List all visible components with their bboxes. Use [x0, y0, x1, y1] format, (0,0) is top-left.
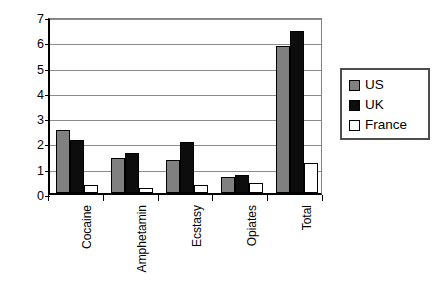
legend-label: US — [365, 78, 384, 92]
y-tick-label: 1 — [37, 164, 44, 177]
bar — [290, 31, 304, 193]
bar-group — [50, 19, 105, 193]
y-tick-label: 4 — [37, 89, 44, 102]
x-tick-mark — [322, 195, 323, 201]
x-tick-mark — [103, 195, 104, 201]
x-axis-label: Ecstasy — [191, 205, 203, 247]
bar-group — [105, 19, 160, 193]
bar — [111, 158, 125, 193]
bar — [249, 183, 263, 193]
y-tick-label: 0 — [37, 190, 44, 203]
x-axis-label: Opiates — [246, 205, 258, 246]
bar — [125, 153, 139, 193]
y-tick-label: 6 — [37, 38, 44, 51]
x-tick-mark — [48, 195, 49, 201]
legend-item: US — [349, 75, 428, 95]
legend-item: France — [349, 115, 428, 135]
bar-chart: 01234567 CocaineAmphetaminEcstasyOpiates… — [0, 0, 440, 287]
bars-layer — [50, 19, 321, 193]
y-tick-label: 3 — [37, 114, 44, 127]
bar — [194, 185, 208, 193]
bar — [166, 160, 180, 193]
bar-group — [214, 19, 269, 193]
bar-group — [160, 19, 215, 193]
legend-swatch-icon — [349, 100, 360, 111]
plot-area: 01234567 — [48, 18, 322, 195]
bar — [235, 175, 249, 193]
y-tick-label: 5 — [37, 63, 44, 76]
legend-swatch-icon — [349, 120, 360, 131]
bar — [304, 163, 318, 193]
x-axis-label: Amphetamin — [136, 205, 148, 272]
x-axis-label: Cocaine — [81, 205, 93, 249]
bar-group — [269, 19, 324, 193]
x-tick-mark — [267, 195, 268, 201]
bar — [139, 188, 153, 193]
bar — [84, 185, 98, 193]
x-tick-mark — [212, 195, 213, 201]
x-axis-label: Total — [301, 205, 313, 230]
legend-label: France — [365, 118, 407, 132]
bar — [221, 177, 235, 193]
legend-swatch-icon — [349, 80, 360, 91]
chart-legend: USUKFrance — [340, 68, 430, 140]
bar — [56, 130, 70, 193]
bar — [276, 46, 290, 193]
y-tick-label: 2 — [37, 139, 44, 152]
x-tick-mark — [158, 195, 159, 201]
y-tick-label: 7 — [37, 13, 44, 26]
legend-item: UK — [349, 95, 428, 115]
bar — [180, 142, 194, 193]
legend-label: UK — [365, 98, 384, 112]
bar — [70, 140, 84, 193]
